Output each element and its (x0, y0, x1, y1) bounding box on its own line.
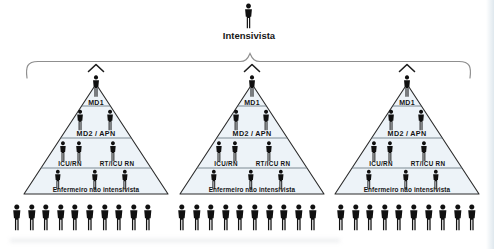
person-icon (55, 204, 67, 231)
person-icon (234, 204, 246, 231)
person-icon (408, 204, 420, 231)
person-icon (220, 204, 232, 231)
level3-left-label: ICU/RN (58, 160, 82, 167)
level3-left-label: ICU/RN (369, 160, 393, 167)
level1-label: MD1 (244, 99, 260, 106)
person-icon (191, 204, 203, 231)
level3-left-label: ICU/RN (214, 160, 238, 167)
person-icon (423, 204, 435, 231)
page-edge-shading (486, 0, 494, 249)
level4-label: Enfermeiro não intensivista (53, 186, 140, 193)
person-icon (11, 204, 23, 231)
person-icon (26, 204, 38, 231)
level1-label: MD1 (88, 99, 104, 106)
person-icon (393, 204, 405, 231)
person-icon (205, 204, 217, 231)
person-icon (350, 204, 362, 231)
person-icon (99, 204, 111, 231)
figure-title: Intensivista (149, 30, 349, 41)
staffing-pyramid-1: MD1 MD2 / APN ICU/RN RT/ICU RN Enfermeir… (18, 62, 174, 196)
crowd-group-3 (335, 204, 478, 231)
level3-right-label: RT/ICU RN (256, 160, 291, 167)
person-icon (84, 204, 96, 231)
staffing-pyramids-figure: Intensivista MD1 MD2 / APN ICU/RN RT/ICU… (0, 0, 494, 249)
staffing-pyramid-3: MD1 MD2 / APN ICU/RN RT/ICU RN Enfermeir… (329, 62, 485, 196)
person-icon (128, 204, 140, 231)
chevron-up-icon (400, 65, 415, 72)
level3-right-label: RT/ICU RN (100, 160, 135, 167)
level2-label: MD2 / APN (77, 129, 116, 138)
person-icon (335, 204, 347, 231)
person-icon (69, 204, 81, 231)
level4-label: Enfermeiro não intensivista (209, 186, 296, 193)
staffing-pyramid-2: MD1 MD2 / APN ICU/RN RT/ICU RN Enfermeir… (174, 62, 330, 196)
person-icon (466, 204, 478, 231)
person-icon (307, 204, 319, 231)
crowd-group-2 (176, 204, 319, 231)
person-icon (40, 204, 52, 231)
person-icon (452, 204, 464, 231)
person-icon (278, 204, 290, 231)
person-icon (113, 204, 125, 231)
person-icon (293, 204, 305, 231)
person-icon (249, 204, 261, 231)
person-icon (142, 204, 154, 231)
intensivist-person-icon (243, 3, 254, 29)
level2-label: MD2 / APN (388, 129, 427, 138)
person-icon (379, 204, 391, 231)
crowd-group-1 (11, 204, 154, 231)
chevron-up-icon (245, 65, 260, 72)
level4-label: Enfermeiro não intensivista (364, 186, 451, 193)
scan-artifact (10, 239, 340, 242)
level1-label: MD1 (399, 99, 415, 106)
chevron-up-icon (89, 65, 104, 72)
person-icon (264, 204, 276, 231)
person-icon (437, 204, 449, 231)
person-icon (176, 204, 188, 231)
level3-right-label: RT/ICU RN (411, 160, 446, 167)
person-icon (364, 204, 376, 231)
level2-label: MD2 / APN (233, 129, 272, 138)
